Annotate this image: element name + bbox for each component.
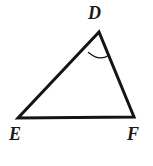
vertex-label-d: D — [88, 4, 101, 22]
triangle-shape — [18, 32, 134, 118]
geometry-figure: D E F — [0, 0, 153, 166]
vertex-label-e: E — [9, 125, 21, 143]
angle-arc-D — [89, 53, 109, 58]
vertex-label-f: F — [127, 125, 139, 143]
